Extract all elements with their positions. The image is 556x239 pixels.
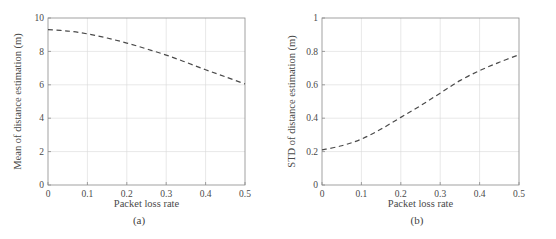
y-tick-label-a: 8 xyxy=(39,47,44,57)
x-tick-label-a: 0.5 xyxy=(239,189,251,199)
tick-labels-b: 00.10.20.30.40.500.20.40.60.81 xyxy=(306,13,525,199)
plot-area-a: 00.10.20.30.40.50246810 Packet loss rate… xyxy=(0,0,278,239)
x-tick-label-b: 0.4 xyxy=(474,189,486,199)
x-tick-label-b: 0 xyxy=(320,189,325,199)
plot-frame-b xyxy=(322,18,519,185)
y-tick-label-a: 6 xyxy=(39,80,44,90)
x-tick-label-a: 0.4 xyxy=(200,189,212,199)
ticks-a xyxy=(48,18,245,185)
y-tick-label-b: 0 xyxy=(313,180,318,190)
plot-frame-a xyxy=(48,18,245,185)
x-tick-label-b: 0.5 xyxy=(513,189,525,199)
chart-panel-a: 00.10.20.30.40.50246810 Packet loss rate… xyxy=(0,0,278,239)
y-tick-label-a: 10 xyxy=(35,13,45,23)
y-tick-label-a: 0 xyxy=(39,180,44,190)
x-axis-title-b: Packet loss rate xyxy=(388,198,454,209)
ticks-b xyxy=(322,18,519,185)
y-tick-label-a: 2 xyxy=(39,147,44,157)
y-axis-title-a: Mean of distance estimation (m) xyxy=(12,33,24,170)
data-series-line-b xyxy=(322,55,519,150)
gridlines-b xyxy=(322,18,519,185)
y-tick-label-b: 0.2 xyxy=(306,147,318,157)
plot-area-b: 00.10.20.30.40.500.20.40.60.81 Packet lo… xyxy=(278,0,556,239)
x-tick-label-a: 0.1 xyxy=(81,189,93,199)
y-tick-label-b: 0.4 xyxy=(306,113,318,123)
x-tick-label-a: 0 xyxy=(46,189,51,199)
x-axis-title-a: Packet loss rate xyxy=(114,198,180,209)
data-series-line-a xyxy=(48,30,245,84)
tick-labels-a: 00.10.20.30.40.50246810 xyxy=(35,13,252,199)
panel-caption-a: (a) xyxy=(0,214,278,226)
chart-panel-b: 00.10.20.30.40.500.20.40.60.81 Packet lo… xyxy=(278,0,556,239)
y-tick-label-b: 1 xyxy=(313,13,318,23)
y-tick-label-b: 0.6 xyxy=(306,80,318,90)
y-tick-label-b: 0.8 xyxy=(306,47,318,57)
y-axis-title-b: STD of distance estimation (m) xyxy=(286,35,298,168)
y-tick-label-a: 4 xyxy=(39,113,44,123)
figure-two-panel-chart: 00.10.20.30.40.50246810 Packet loss rate… xyxy=(0,0,556,239)
panel-caption-b: (b) xyxy=(278,214,556,226)
gridlines-a xyxy=(48,18,245,185)
x-tick-label-b: 0.1 xyxy=(355,189,367,199)
